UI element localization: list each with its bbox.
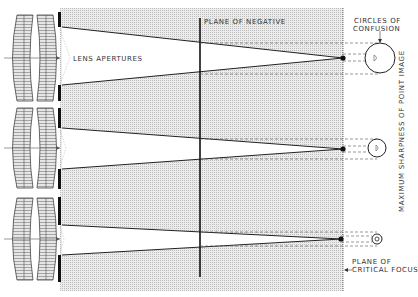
circles-of-confusion-label-2: CONFUSION bbox=[353, 25, 400, 34]
shaded-field bbox=[60, 8, 343, 291]
circle-of-confusion-medium bbox=[368, 139, 386, 157]
circle-of-confusion-small bbox=[372, 234, 382, 244]
plane-of-negative-label: PLANE OF NEGATIVE bbox=[204, 18, 286, 27]
plane-of-critical-focus-label-2: CRITICAL FOCUS bbox=[352, 266, 418, 275]
focus-point-3 bbox=[338, 236, 343, 241]
arrow-left-icon bbox=[344, 268, 348, 272]
aperture-stop-top bbox=[58, 12, 61, 27]
arrow-icon bbox=[56, 56, 60, 60]
arrow-down-icon bbox=[378, 39, 382, 43]
lens-apertures-label: LENS APERTURES bbox=[73, 55, 143, 64]
arrow-icon bbox=[56, 237, 60, 241]
arrow-icon bbox=[56, 146, 60, 150]
aperture-stop-bottom bbox=[58, 85, 61, 101]
focus-point-2 bbox=[340, 146, 345, 151]
focus-point-1 bbox=[340, 55, 345, 60]
maximum-sharpness-label: MAXIMUM SHARPNESS OF POINT IMAGE bbox=[398, 50, 406, 212]
circle-of-confusion-large bbox=[365, 43, 395, 73]
